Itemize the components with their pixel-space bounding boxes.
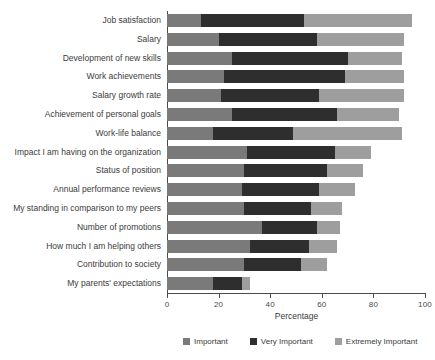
legend-label: Extremely Important — [346, 337, 418, 346]
bar-row: Status of position — [167, 164, 425, 177]
bar-segment — [167, 146, 247, 159]
stacked-bar — [167, 164, 363, 177]
x-axis-tick — [167, 293, 168, 298]
stacked-bar — [167, 108, 399, 121]
bar-segment — [167, 277, 213, 290]
stacked-bar-chart: Job satisfactionSalaryDevelopment of new… — [0, 0, 435, 360]
legend-swatch-icon — [335, 338, 342, 345]
category-label: Impact I am having on the organization — [15, 146, 161, 159]
x-axis-tick — [322, 293, 323, 298]
legend-item[interactable]: Very Important — [250, 337, 313, 346]
bar-segment — [167, 89, 221, 102]
stacked-bar — [167, 183, 355, 196]
bar-segment — [201, 14, 304, 27]
bar-segment — [167, 52, 232, 65]
legend-swatch-icon — [250, 338, 257, 345]
bar-segment — [309, 240, 337, 253]
stacked-bar — [167, 89, 404, 102]
category-label: Work-life balance — [95, 127, 161, 140]
bar-segment — [244, 202, 311, 215]
bar-segment — [317, 221, 340, 234]
x-axis-tick-label: 100 — [418, 300, 432, 309]
legend-label: Important — [194, 337, 228, 346]
bar-segment — [221, 89, 319, 102]
category-label: Contribution to society — [77, 258, 161, 271]
bar-segment — [335, 146, 371, 159]
bar-segment — [327, 164, 363, 177]
legend-label: Very Important — [261, 337, 313, 346]
stacked-bar — [167, 33, 404, 46]
x-axis-tick — [219, 293, 220, 298]
chart-legend: ImportantVery ImportantExtremely Importa… — [183, 337, 417, 346]
bar-segment — [244, 258, 301, 271]
bar-row: Impact I am having on the organization — [167, 146, 425, 159]
bar-segment — [319, 183, 355, 196]
stacked-bar — [167, 240, 337, 253]
bar-segment — [167, 127, 213, 140]
bar-segment — [167, 108, 232, 121]
x-axis-tick — [373, 293, 374, 298]
category-label: How much I am helping others — [46, 240, 161, 253]
x-axis-tick — [270, 293, 271, 298]
bar-segment — [167, 70, 224, 83]
bar-rows: Job satisfactionSalaryDevelopment of new… — [167, 11, 425, 293]
category-label: Work achievements — [87, 70, 161, 83]
bar-segment — [167, 183, 242, 196]
category-label: Job satisfaction — [102, 14, 161, 27]
x-axis-tick-label: 20 — [214, 300, 223, 309]
bar-row: Work achievements — [167, 70, 425, 83]
bar-segment — [293, 127, 401, 140]
bar-row: Contribution to society — [167, 258, 425, 271]
bar-segment — [345, 70, 404, 83]
stacked-bar — [167, 258, 327, 271]
bar-segment — [167, 202, 244, 215]
x-axis-tick — [425, 293, 426, 298]
bar-segment — [167, 164, 244, 177]
stacked-bar — [167, 277, 250, 290]
stacked-bar — [167, 52, 402, 65]
stacked-bar — [167, 146, 371, 159]
bar-segment — [167, 221, 262, 234]
bar-segment — [213, 277, 241, 290]
bar-segment — [167, 14, 201, 27]
stacked-bar — [167, 70, 404, 83]
bar-row: Annual performance reviews — [167, 183, 425, 196]
legend-item[interactable]: Important — [183, 337, 228, 346]
bar-row: Salary growth rate — [167, 89, 425, 102]
x-axis-tick-label: 80 — [369, 300, 378, 309]
x-axis-title: Percentage — [167, 311, 426, 321]
bar-segment — [250, 240, 309, 253]
bar-row: Development of new skills — [167, 52, 425, 65]
bar-row: Number of promotions — [167, 221, 425, 234]
bar-segment — [167, 258, 244, 271]
bar-segment — [337, 108, 399, 121]
bar-segment — [224, 70, 345, 83]
x-axis-tick-label: 0 — [165, 300, 170, 309]
bar-segment — [244, 164, 327, 177]
bar-segment — [213, 127, 293, 140]
bar-segment — [247, 146, 335, 159]
bar-row: My standing in comparison to my peers — [167, 202, 425, 215]
bar-segment — [319, 89, 404, 102]
bar-row: Salary — [167, 33, 425, 46]
bar-row: Job satisfaction — [167, 14, 425, 27]
category-label: Achievement of personal goals — [45, 108, 161, 121]
bar-row: Work-life balance — [167, 127, 425, 140]
stacked-bar — [167, 202, 342, 215]
category-label: Status of position — [96, 164, 161, 177]
bar-segment — [317, 33, 405, 46]
category-label: My parents' expectations — [67, 277, 161, 290]
legend-item[interactable]: Extremely Important — [335, 337, 418, 346]
bar-row: How much I am helping others — [167, 240, 425, 253]
bar-segment — [167, 240, 250, 253]
bar-segment — [348, 52, 402, 65]
stacked-bar — [167, 127, 402, 140]
stacked-bar — [167, 221, 340, 234]
bar-segment — [232, 52, 348, 65]
bar-segment — [262, 221, 316, 234]
category-label: Salary — [137, 33, 161, 46]
bar-segment — [304, 14, 412, 27]
plot-area: Job satisfactionSalaryDevelopment of new… — [167, 11, 425, 293]
bar-segment — [242, 183, 319, 196]
x-axis-tick-label: 40 — [266, 300, 275, 309]
